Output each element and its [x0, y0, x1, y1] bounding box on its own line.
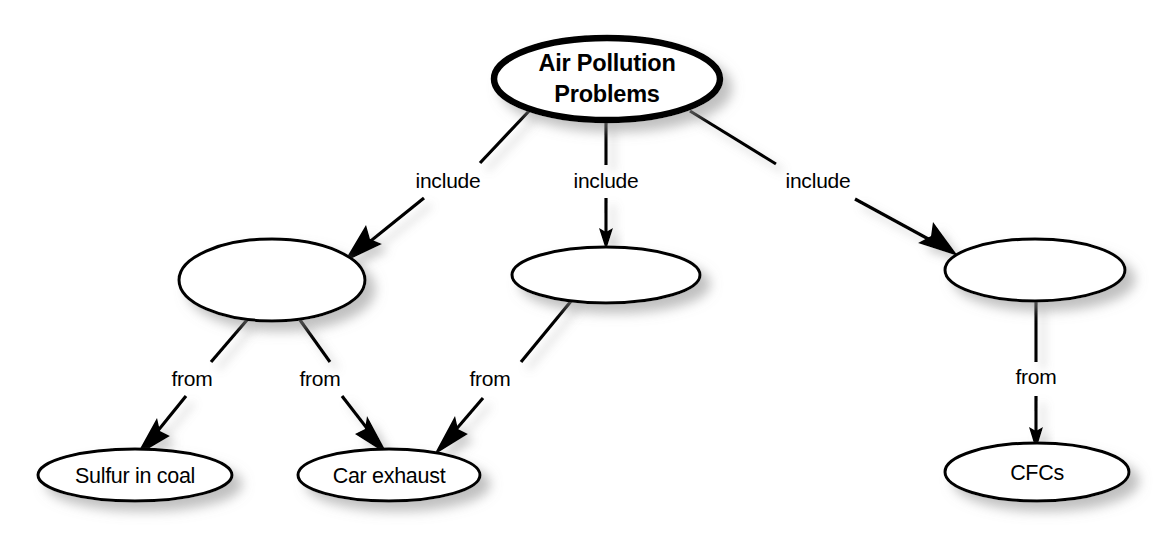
- node-mid-right-blank[interactable]: [945, 239, 1125, 301]
- edge-line-segment: [521, 300, 572, 362]
- node-mid-center-blank[interactable]: [512, 247, 700, 303]
- concept-map-svg: Air Pollution Problems Sulfur in coal: [0, 0, 1159, 537]
- arrow-head-icon: [918, 222, 958, 256]
- edge-label-from-car-exhaust-center: from: [469, 367, 510, 390]
- nodes-layer: Air Pollution Problems Sulfur in coal: [38, 38, 1129, 501]
- node-cfcs[interactable]: CFCs: [945, 443, 1129, 501]
- diagram-canvas: Air Pollution Problems Sulfur in coal: [0, 0, 1159, 537]
- edge-label-from-cfcs: from: [1015, 365, 1056, 388]
- node-label: Sulfur in coal: [75, 464, 195, 488]
- node-car-exhaust[interactable]: Car exhaust: [298, 449, 480, 501]
- node-mid-left-blank[interactable]: [179, 239, 365, 321]
- node-sulfur-in-coal[interactable]: Sulfur in coal: [38, 449, 232, 501]
- edge-label-include-left: include: [415, 169, 480, 192]
- node-label-line1: Air Pollution: [538, 50, 675, 76]
- node-shape-ellipse: [945, 239, 1125, 301]
- node-shape-ellipse: [512, 247, 700, 303]
- node-label: Car exhaust: [333, 464, 446, 488]
- edge-line-segment: [300, 320, 330, 362]
- edge-label-include-center: include: [573, 169, 638, 192]
- edge-label-from-car-exhaust-left: from: [299, 367, 340, 390]
- edge-line-segment: [480, 110, 530, 163]
- edge-line-segment: [211, 320, 247, 362]
- edge-label-include-right: include: [785, 169, 850, 192]
- node-shape-ellipse: [179, 239, 365, 321]
- edge-line-segment: [690, 111, 776, 164]
- edge-label-from-sulfur: from: [171, 367, 212, 390]
- node-label: CFCs: [1010, 461, 1064, 485]
- node-label-line2: Problems: [554, 81, 660, 107]
- node-air-pollution-problems[interactable]: Air Pollution Problems: [494, 38, 720, 120]
